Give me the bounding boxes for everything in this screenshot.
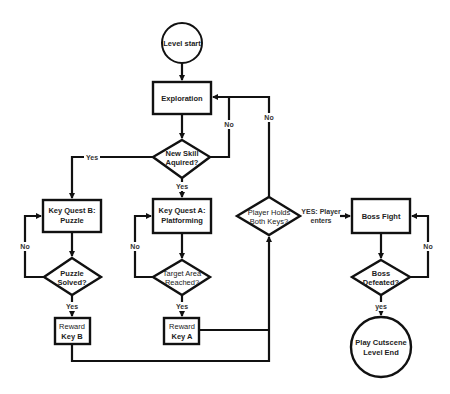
node-reward-key-b: Reward Key B xyxy=(55,318,90,344)
node-target-area-decision: Target Area Reached? xyxy=(153,260,210,295)
label-skill-yes-left: Yes xyxy=(86,154,98,161)
node-label-2: Platforming xyxy=(161,216,203,225)
flowchart: No No Yes Yes No Yes No Yes YES: Player … xyxy=(0,0,450,394)
label-keys-yes-1: YES: Player xyxy=(301,208,341,216)
label-keys-no: No xyxy=(264,114,273,121)
node-label-1: Reward xyxy=(59,322,85,331)
node-label-1: Key Quest B: xyxy=(48,206,95,215)
node-key-quest-a: Key Quest A: Platforming xyxy=(153,199,211,233)
node-reward-key-a: Reward Key A xyxy=(164,318,199,344)
node-label-1: Reward xyxy=(169,322,195,331)
node-label-1: Key Quest A: xyxy=(159,206,206,215)
node-label: Boss Fight xyxy=(362,212,401,221)
node-level-end: Play Cutscene Level End xyxy=(351,317,411,377)
node-label-1: Player Holds xyxy=(248,208,291,217)
node-label-1: Boss xyxy=(372,269,390,278)
node-label-2: Reached? xyxy=(165,278,199,287)
node-label: Level start xyxy=(163,39,201,48)
label-skill-no: No xyxy=(224,121,233,128)
label-skill-yes-down: Yes xyxy=(176,183,188,190)
node-puzzle-solved-decision: Puzzle Solved? xyxy=(44,258,101,295)
node-label-2: Key A xyxy=(172,332,194,341)
label-boss-no: No xyxy=(423,243,432,250)
label-target-yes: Yes xyxy=(176,303,188,310)
node-boss-fight: Boss Fight xyxy=(352,199,410,233)
edge-newskill-yes-b xyxy=(72,157,153,198)
node-key-quest-b: Key Quest B: Puzzle xyxy=(43,200,101,232)
node-label-1: Target Area xyxy=(163,269,202,278)
label-keys-yes-2: enters xyxy=(310,217,331,224)
edge-keys-no xyxy=(229,97,269,197)
node-label-2: Puzzle xyxy=(60,216,83,225)
node-label-2: Solved? xyxy=(57,278,87,287)
node-exploration: Exploration xyxy=(153,82,211,114)
label-target-no: No xyxy=(130,243,139,250)
node-label: Exploration xyxy=(161,94,203,103)
node-label-1: New Skill xyxy=(166,149,199,158)
node-label-2: Key B xyxy=(61,332,83,341)
node-label-2: Both Keys? xyxy=(250,217,288,226)
node-label-2: Aquired? xyxy=(166,158,199,167)
label-puzzle-yes: Yes xyxy=(66,303,78,310)
node-label-2: Defeated? xyxy=(363,278,400,287)
node-level-start: Level start xyxy=(162,23,202,63)
node-label-1: Play Cutscene xyxy=(355,338,406,347)
node-boss-defeated-decision: Boss Defeated? xyxy=(352,260,410,295)
label-boss-yes: yes xyxy=(375,303,387,311)
label-puzzle-no: No xyxy=(20,243,29,250)
node-label-1: Puzzle xyxy=(60,269,83,278)
node-new-skill-decision: New Skill Aquired? xyxy=(153,140,210,178)
node-holds-both-keys-decision: Player Holds Both Keys? xyxy=(237,197,300,235)
node-label-2: Level End xyxy=(363,348,399,357)
